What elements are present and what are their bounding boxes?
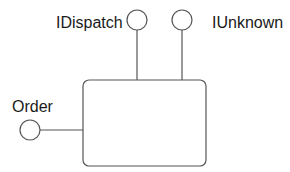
interface-order: Order <box>12 98 83 140</box>
interface-iunknown: IUnknown <box>172 10 283 80</box>
order-label: Order <box>12 98 54 115</box>
idispatch-label: IDispatch <box>56 14 123 31</box>
com-component-diagram: IDispatch IUnknown Order <box>0 0 290 172</box>
iunknown-label: IUnknown <box>212 14 283 31</box>
idispatch-lollipop-icon <box>127 10 147 30</box>
interface-idispatch: IDispatch <box>56 10 147 80</box>
order-lollipop-icon <box>20 120 40 140</box>
component-box <box>83 80 206 166</box>
iunknown-lollipop-icon <box>172 10 192 30</box>
